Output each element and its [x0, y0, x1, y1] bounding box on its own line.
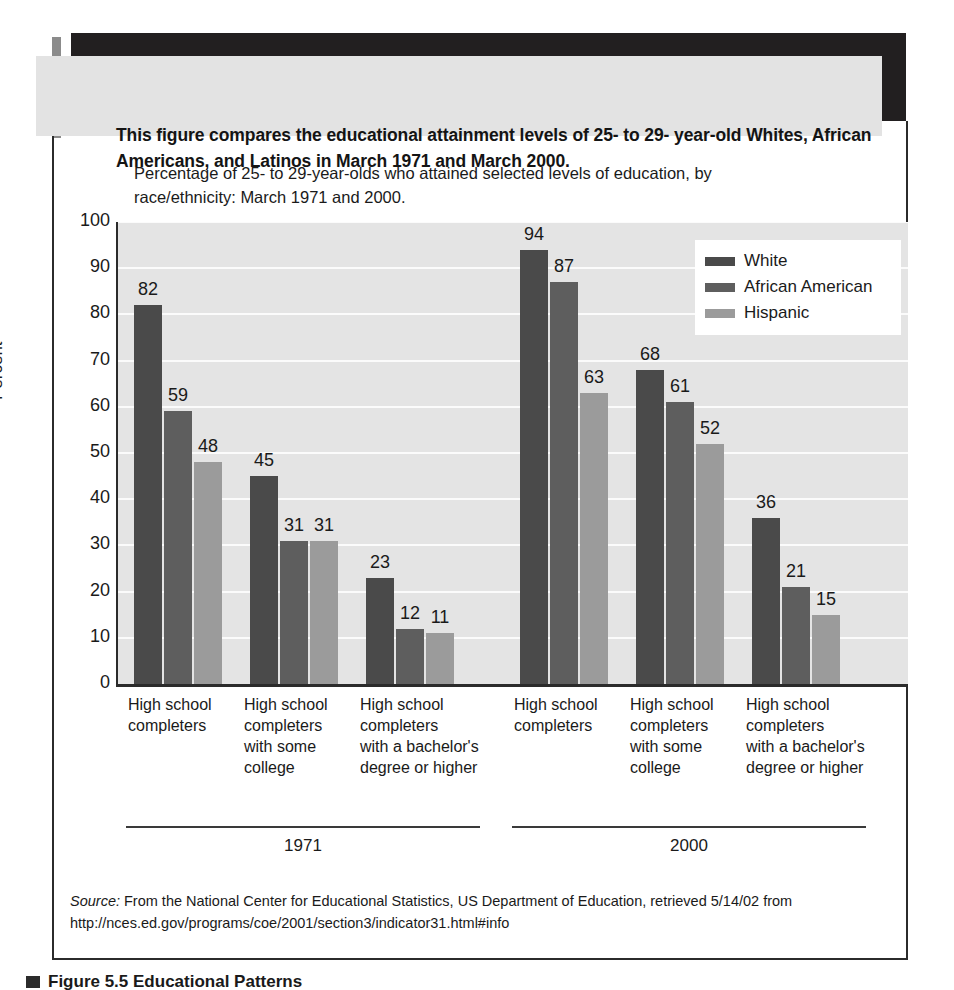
bar-value-label: 23: [358, 552, 402, 573]
legend-swatch-icon: [705, 283, 735, 292]
category-label-line: degree or higher: [746, 757, 874, 778]
bar: [396, 629, 424, 684]
y-axis-tick-label: 70: [62, 349, 110, 370]
category-label-line: with a bachelor's: [746, 736, 874, 757]
bar-value-label: 21: [774, 561, 818, 582]
bar: [520, 250, 548, 684]
category-label-line: completers: [244, 715, 372, 736]
category-label-line: completers: [514, 715, 642, 736]
category-label-line: completers: [630, 715, 758, 736]
gridline: [118, 406, 908, 408]
category-label: High schoolcompleterswith somecollege: [244, 694, 372, 778]
legend-item: White: [705, 248, 891, 274]
bar-value-label: 15: [804, 589, 848, 610]
period-label: 2000: [512, 836, 866, 856]
gridline: [118, 360, 908, 362]
figure-root: This figure compares the educational att…: [0, 0, 954, 990]
bar-value-label: 36: [744, 492, 788, 513]
source-note: Source: From the National Center for Edu…: [70, 890, 890, 934]
category-label: High schoolcompleters: [514, 694, 642, 736]
source-note-lead: Source:: [70, 893, 120, 909]
category-label-line: college: [244, 757, 372, 778]
category-label-line: High school: [244, 694, 372, 715]
gridline: [118, 452, 908, 454]
bar-value-label: 63: [572, 367, 616, 388]
bar: [636, 370, 664, 684]
bar-value-label: 94: [512, 224, 556, 245]
category-label: High schoolcompleterswith somecollege: [630, 694, 758, 778]
y-axis-tick-label: 100: [62, 210, 110, 231]
gridline: [118, 544, 908, 546]
bar-value-label: 68: [628, 344, 672, 365]
category-label: High schoolcompleters: [128, 694, 256, 736]
bar: [580, 393, 608, 684]
bar-value-label: 82: [126, 279, 170, 300]
legend-label: African American: [744, 277, 873, 297]
legend-label: White: [744, 251, 787, 271]
category-label-line: High school: [746, 694, 874, 715]
category-label-line: college: [630, 757, 758, 778]
period-rule: [512, 826, 866, 828]
y-axis-tick-label: 30: [62, 533, 110, 554]
bar-value-label: 48: [186, 436, 230, 457]
y-axis-tick-column: 0102030405060708090100: [58, 222, 110, 684]
category-label-line: High school: [360, 694, 488, 715]
bar: [426, 633, 454, 684]
y-axis-tick-label: 80: [62, 302, 110, 323]
y-axis-line: [116, 222, 118, 686]
category-label-line: High school: [514, 694, 642, 715]
bar: [134, 305, 162, 684]
bar-value-label: 61: [658, 376, 702, 397]
chart-legend: WhiteAfrican AmericanHispanic: [695, 240, 901, 335]
bar: [250, 476, 278, 684]
bar: [550, 282, 578, 684]
category-label-line: completers: [360, 715, 488, 736]
source-note-body: From the National Center for Educational…: [70, 893, 792, 931]
category-label: High schoolcompleterswith a bachelor'sde…: [360, 694, 488, 778]
category-label-line: High school: [128, 694, 256, 715]
bar-value-label: 45: [242, 450, 286, 471]
category-label-line: High school: [630, 694, 758, 715]
y-axis-tick-label: 20: [62, 580, 110, 601]
x-axis-line: [116, 684, 908, 687]
figure-border-top-stub: [906, 121, 908, 139]
bar: [666, 402, 694, 684]
figure-caption-text: Figure 5.5 Educational Patterns: [48, 972, 302, 990]
gridline: [118, 498, 908, 500]
bar: [194, 462, 222, 684]
bar: [310, 541, 338, 684]
y-axis-tick-label: 10: [62, 626, 110, 647]
category-label-line: completers: [746, 715, 874, 736]
callout-panel: This figure compares the educational att…: [36, 56, 882, 136]
bar: [752, 518, 780, 684]
bar-value-label: 52: [688, 418, 732, 439]
category-label-line: degree or higher: [360, 757, 488, 778]
caption-marker-icon: [26, 976, 40, 988]
legend-label: Hispanic: [744, 303, 809, 323]
bar-value-label: 31: [302, 515, 346, 536]
bar: [280, 541, 308, 684]
y-axis-tick-label: 60: [62, 395, 110, 416]
figure-caption: Figure 5.5 Educational Patterns: [26, 972, 586, 990]
y-axis-tick-label: 40: [62, 487, 110, 508]
category-label-line: with some: [630, 736, 758, 757]
bar: [696, 444, 724, 684]
legend-item: African American: [705, 274, 891, 300]
legend-swatch-icon: [705, 309, 735, 318]
legend-item: Hispanic: [705, 300, 891, 326]
period-rule: [126, 826, 480, 828]
category-label-line: with some: [244, 736, 372, 757]
y-axis-tick-label: 50: [62, 441, 110, 462]
category-label-line: with a bachelor's: [360, 736, 488, 757]
bar-value-label: 59: [156, 385, 200, 406]
bar-value-label: 11: [418, 607, 462, 628]
y-axis-tick-label: 0: [62, 672, 110, 693]
legend-swatch-icon: [705, 257, 735, 266]
category-label-line: completers: [128, 715, 256, 736]
bar: [366, 578, 394, 684]
period-label: 1971: [126, 836, 480, 856]
y-axis-tick-label: 90: [62, 256, 110, 277]
category-label: High schoolcompleterswith a bachelor'sde…: [746, 694, 874, 778]
chart-title: Percentage of 25- to 29-year-olds who at…: [134, 161, 774, 209]
bar-value-label: 87: [542, 256, 586, 277]
